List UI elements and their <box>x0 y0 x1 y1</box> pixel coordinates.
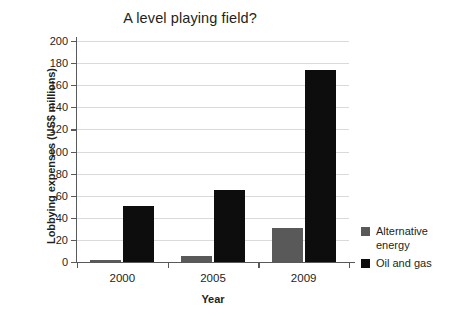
y-tick-label: 100 <box>50 146 68 158</box>
y-tick-label: 60 <box>56 190 68 202</box>
y-tick-label: 200 <box>50 35 68 47</box>
bar-2000-oil-and-gas <box>123 206 154 262</box>
bar-2005-oil-and-gas <box>214 190 245 262</box>
y-tick-label: 120 <box>50 123 68 135</box>
x-tick-mark <box>258 262 259 268</box>
legend-swatch-icon <box>361 259 370 268</box>
bar-2000-alternative-energy <box>90 260 121 262</box>
y-tick-label: 20 <box>56 234 68 246</box>
x-tick-label: 2009 <box>291 272 317 284</box>
legend-swatch-icon <box>361 227 370 236</box>
x-tick-mark <box>168 262 169 268</box>
legend-item-alternative-energy: Alternative energy <box>361 224 457 252</box>
y-tick-label: 180 <box>50 57 68 69</box>
legend-label: Oil and gas <box>376 256 432 270</box>
chart-title: A level playing field? <box>0 10 380 26</box>
bar-2009-oil-and-gas <box>305 70 336 262</box>
x-tick-label: 2005 <box>200 272 226 284</box>
legend-label: Alternative energy <box>376 224 457 252</box>
bar-2005-alternative-energy <box>181 256 212 262</box>
plot-area: 020406080100120140160180200 200020052009 <box>77 41 349 262</box>
x-axis-title: Year <box>77 293 349 305</box>
x-tick-mark <box>77 262 78 268</box>
bars-layer <box>77 41 349 262</box>
y-tick-label: 0 <box>62 256 68 268</box>
y-tick-label: 160 <box>50 79 68 91</box>
bar-2009-alternative-energy <box>272 228 303 262</box>
y-tick-label: 140 <box>50 101 68 113</box>
x-tick-label: 2000 <box>110 272 136 284</box>
chart-legend: Alternative energyOil and gas <box>361 224 457 274</box>
bar-chart: A level playing field? Lobbying expenses… <box>0 0 457 322</box>
legend-item-oil-and-gas: Oil and gas <box>361 256 457 270</box>
x-tick-mark <box>349 262 350 268</box>
y-tick-label: 80 <box>56 168 68 180</box>
y-tick-label: 40 <box>56 212 68 224</box>
